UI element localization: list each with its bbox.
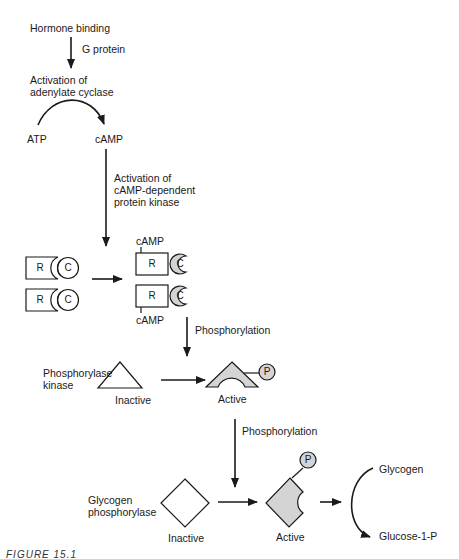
regulatory-subunit-label: R: [146, 291, 158, 301]
adenylate-cyclase-label: Activation of adenylate cyclase: [30, 74, 113, 98]
glycogen-label: Glycogen: [379, 463, 423, 475]
catalytic-subunit-label: C: [62, 263, 74, 273]
phosphorylase-kinase-label: Phosphorylase kinase: [43, 367, 112, 391]
catalytic-subunit-label: C: [174, 259, 186, 269]
regulatory-subunit-label: R: [34, 263, 46, 273]
glycogen-phosphorylase-label: Glycogen phosphorylase: [88, 494, 156, 518]
phosphate-group-label: P: [261, 367, 273, 377]
camp-bound-top-label: cAMP: [136, 235, 164, 247]
camp-label: cAMP: [95, 133, 123, 145]
kinase-activation-label: Activation of cAMP-dependent protein kin…: [114, 172, 195, 208]
kinase-inactive-label: Inactive: [115, 394, 151, 406]
phosphorylase-active-label: Active: [276, 531, 305, 543]
glycogen-phosphorylase-inactive: [161, 479, 209, 527]
camp-bound-bottom-label: cAMP: [136, 314, 164, 326]
catalytic-subunit-label: C: [62, 295, 74, 305]
glycogen-to-glucose-arrow: [352, 468, 373, 537]
atp-to-camp-arrow: [38, 100, 104, 125]
g-protein-label: G protein: [82, 43, 125, 55]
phosphate-group-label: P: [302, 455, 314, 465]
phosphorylation-label-1: Phosphorylation: [195, 324, 270, 336]
phosphorylation-label-2: Phosphorylation: [242, 425, 317, 437]
kinase-active-label: Active: [218, 393, 247, 405]
hormone-binding-label: Hormone binding: [30, 22, 110, 34]
atp-label: ATP: [27, 133, 47, 145]
phosphorylase-inactive-label: Inactive: [168, 532, 204, 544]
regulatory-subunit-label: R: [146, 259, 158, 269]
regulatory-subunit-label: R: [34, 295, 46, 305]
catalytic-subunit-label: C: [174, 291, 186, 301]
glucose-1-p-label: Glucose-1-P: [379, 530, 437, 542]
figure-caption: FIGURE 15.1: [6, 549, 77, 559]
active-pka: [136, 247, 186, 313]
